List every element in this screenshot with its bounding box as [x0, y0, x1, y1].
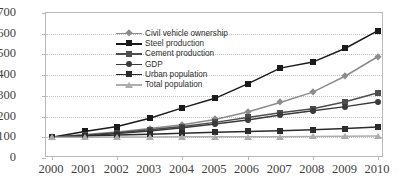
legend-marker-icon — [116, 28, 142, 38]
legend-item-label: Civil vehicle ownership — [142, 29, 228, 38]
legend-marker-icon — [116, 80, 142, 90]
data-point-marker — [310, 59, 316, 65]
legend-item-label: Urban population — [142, 70, 207, 79]
legend-marker-icon — [116, 49, 142, 59]
data-point-marker — [147, 115, 153, 121]
data-point-marker — [211, 134, 219, 140]
legend-item[interactable]: Urban population — [116, 69, 228, 79]
chart-legend: Civil vehicle ownershipSteel productionC… — [116, 28, 228, 90]
y-axis-tick-label: 500 — [0, 47, 16, 59]
data-point-marker — [212, 121, 218, 127]
y-axis-tick-label: 300 — [0, 89, 16, 101]
data-point-marker — [309, 133, 317, 139]
legend-item[interactable]: GDP — [116, 59, 228, 69]
data-point-marker — [245, 81, 251, 87]
data-point-marker — [341, 133, 349, 139]
data-point-marker — [375, 99, 381, 105]
data-point-marker — [178, 134, 186, 140]
y-axis-tick-label: 400 — [0, 68, 16, 80]
data-point-marker — [179, 105, 185, 111]
y-axis-tick-label: 700 — [0, 6, 16, 18]
data-point-marker — [114, 124, 120, 130]
legend-item[interactable]: Steel production — [116, 38, 228, 48]
y-axis-tick-label: 600 — [0, 27, 16, 39]
data-point-marker — [374, 133, 382, 139]
data-point-marker — [342, 45, 348, 51]
legend-item[interactable]: Total population — [116, 79, 228, 89]
legend-item-label: GDP — [142, 60, 163, 69]
line-chart: 7006005004003002001000 Civil vehicle own… — [0, 0, 402, 190]
data-point-marker — [342, 126, 348, 132]
data-point-marker — [310, 127, 316, 133]
legend-item[interactable]: Cement production — [116, 49, 228, 59]
y-axis-tick-label: 100 — [0, 130, 16, 142]
legend-marker-icon — [116, 69, 142, 79]
data-point-marker — [375, 90, 381, 96]
data-point-marker — [81, 134, 89, 140]
legend-item[interactable]: Civil vehicle ownership — [116, 28, 228, 38]
y-tickmark — [42, 158, 46, 159]
data-point-marker — [277, 65, 283, 71]
data-point-marker — [375, 28, 381, 34]
legend-marker-icon — [116, 59, 142, 69]
plot-area: Civil vehicle ownershipSteel productionC… — [45, 12, 383, 157]
legend-marker-icon — [116, 38, 142, 48]
legend-item-label: Total population — [142, 80, 202, 89]
data-point-marker — [146, 134, 154, 140]
data-point-marker — [212, 95, 218, 101]
y-axis-tick-label: 200 — [0, 110, 16, 122]
data-point-marker — [48, 134, 56, 140]
data-point-marker — [113, 134, 121, 140]
data-point-marker — [244, 134, 252, 140]
legend-item-label: Steel production — [142, 39, 204, 48]
legend-item-label: Cement production — [142, 49, 214, 58]
data-point-marker — [342, 104, 348, 110]
data-point-marker — [375, 124, 381, 130]
data-point-marker — [276, 134, 284, 140]
y-axis-tick-label: 0 — [0, 151, 16, 163]
data-point-marker — [277, 112, 283, 118]
data-point-marker — [310, 108, 316, 114]
data-point-marker — [245, 117, 251, 123]
x-axis-tick-label: 2010 — [356, 163, 398, 176]
